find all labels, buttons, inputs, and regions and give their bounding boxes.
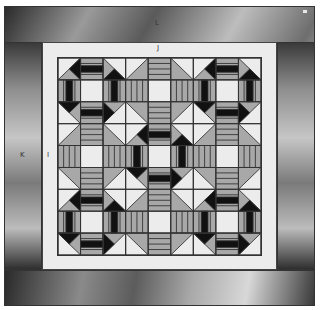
label-outer-left: K bbox=[20, 151, 25, 159]
outer-border-right bbox=[277, 42, 315, 270]
label-outer-top: L bbox=[155, 19, 159, 27]
label-inner-left: I bbox=[47, 151, 49, 159]
corner-mark-icon bbox=[303, 10, 307, 13]
label-inner-top: J bbox=[157, 44, 159, 52]
quilt-blocks bbox=[58, 58, 261, 255]
quilt-center bbox=[57, 57, 262, 256]
outer-border-bottom bbox=[4, 270, 315, 306]
